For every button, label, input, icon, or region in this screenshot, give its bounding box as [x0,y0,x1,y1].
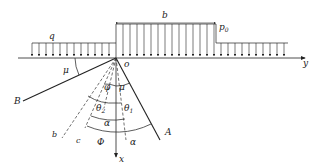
y-axis-label: y [302,58,309,68]
angle-mu-left-arc [75,58,79,75]
x-axis-label: x [119,154,124,164]
point-B-label: B [13,96,21,106]
line-c-label: c [76,136,81,145]
strip-width-label: b [162,10,168,20]
dashed-line-inner-right [116,58,126,140]
origin-label: o [124,59,130,69]
dashed-line-c [85,58,116,128]
angle-theta2-label: θ2 [96,103,105,114]
uniform-load-q-right [216,43,288,56]
uniform-load-q-left [32,43,116,56]
angle-alpha-right-label: α [130,137,136,147]
line-oB [23,58,116,101]
angle-theta2-arc [88,96,116,103]
angle-theta1-label: θ1 [124,103,133,114]
angle-mu-right-label: μ [119,82,125,92]
angle-alpha-mid-label: α [104,118,110,128]
angle-mu-left-label: μ [63,65,69,75]
strip-load-p0 [116,24,216,58]
load-q-label: q [49,31,55,41]
point-A-label: A [164,127,172,137]
line-b-label: b [52,130,57,139]
stress-diagram: y q [0,0,319,166]
line-oA [116,58,160,140]
angle-Phi-arc [87,124,151,132]
load-p0-label: p0 [219,22,229,33]
angle-phi-label: φ [104,82,111,92]
angle-Phi-label: Φ [97,137,104,147]
